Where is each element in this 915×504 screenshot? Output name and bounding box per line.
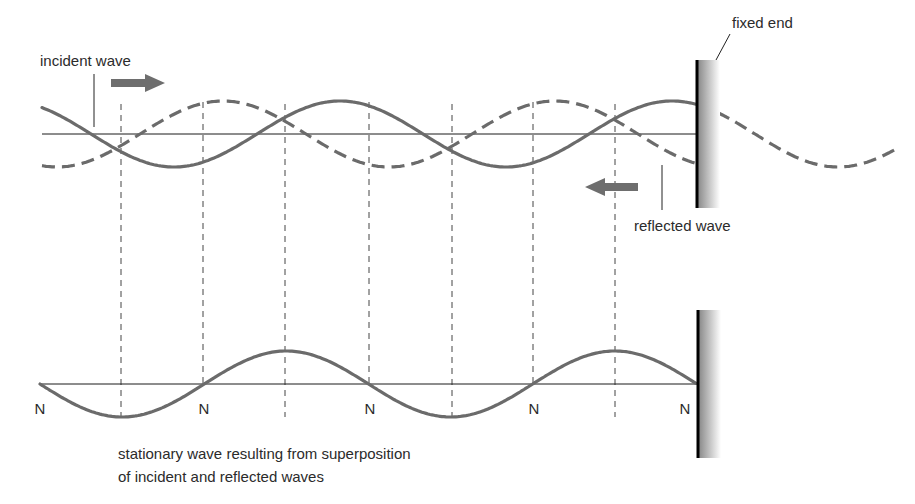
incident-wave-label: incident wave — [40, 52, 131, 69]
caption-line-1: stationary wave resulting from superposi… — [118, 445, 411, 462]
node-label: N — [680, 400, 691, 417]
node-label: N — [199, 400, 210, 417]
node-label: N — [529, 400, 540, 417]
reflected-wave-label: reflected wave — [634, 217, 731, 234]
antinode-node-guides — [121, 102, 615, 417]
incident-wave-continuation-curve — [699, 105, 897, 167]
bottom-wall-shading — [699, 310, 721, 458]
fixed-end-label: fixed end — [732, 14, 793, 31]
reflected-direction-arrow — [585, 178, 638, 196]
top-panel: incident wave reflected wave fixed end — [40, 14, 897, 234]
stationary-wave-diagram: incident wave reflected wave fixed end N… — [0, 0, 915, 504]
top-wall-shading — [698, 60, 720, 208]
caption-line-2: of incident and reflected waves — [118, 468, 324, 485]
bottom-panel: N N N N N stationary wave resulting from… — [35, 310, 721, 485]
incident-direction-arrow — [111, 74, 165, 92]
fixed-end-label-leader — [716, 34, 730, 60]
node-label: N — [35, 400, 46, 417]
node-label: N — [365, 400, 376, 417]
